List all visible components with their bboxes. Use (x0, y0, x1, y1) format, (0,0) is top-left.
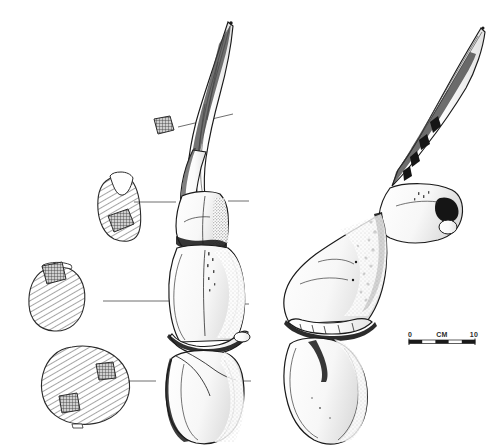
condyle-right (234, 332, 250, 342)
horn-core-lateral-tip (482, 27, 485, 30)
scale-bar-track (409, 340, 475, 343)
section-d-inclusion-2 (59, 393, 80, 413)
horn-core-tip (229, 21, 232, 24)
scale-bar-left-label: 0 (408, 331, 412, 338)
section-d-inclusion-1 (96, 362, 116, 380)
figure-container: 0 CM 10 (0, 0, 503, 448)
orbital-rim (439, 220, 457, 234)
fossil-illustration: 0 CM 10 (0, 0, 503, 448)
scale-bar-right-label: 10 (470, 331, 478, 338)
section-d-foot (72, 424, 83, 428)
section-d-outline (41, 346, 129, 424)
scale-bar-unit-label: CM (436, 331, 448, 338)
